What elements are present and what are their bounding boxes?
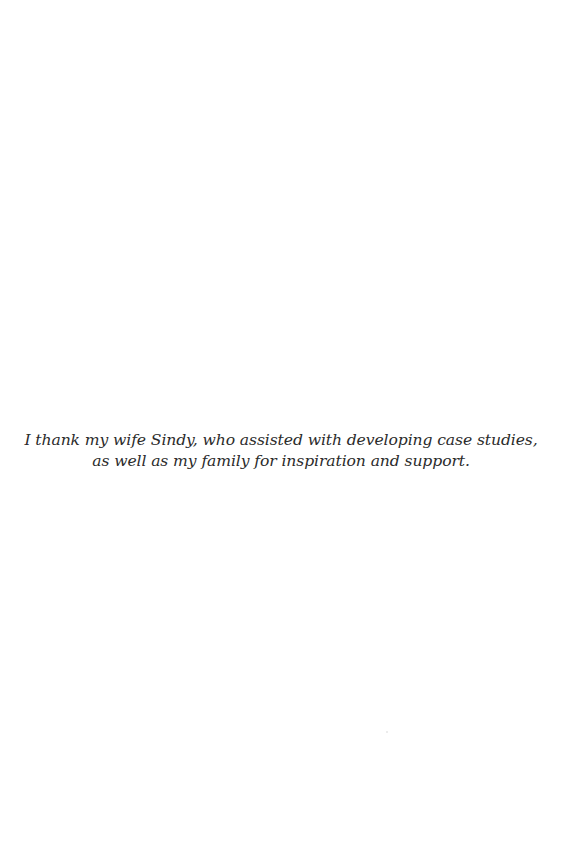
dedication-line-2: as well as my family for inspiration and… <box>20 451 542 472</box>
scan-artifact <box>386 731 388 733</box>
dedication-line-1: I thank my wife Sindy, who assisted with… <box>20 430 542 451</box>
dedication-text: I thank my wife Sindy, who assisted with… <box>20 430 542 472</box>
document-page: I thank my wife Sindy, who assisted with… <box>0 0 588 867</box>
